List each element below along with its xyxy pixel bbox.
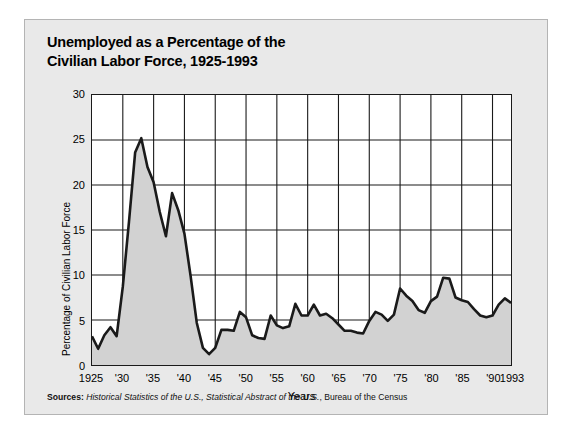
y-tick-label: 5 xyxy=(79,315,85,327)
y-tick-label: 15 xyxy=(73,224,85,236)
x-tick-label: '80 xyxy=(424,372,438,384)
y-tick-label: 30 xyxy=(73,88,85,100)
y-tick-label: 0 xyxy=(79,360,85,372)
x-tick-label: '90 xyxy=(486,372,500,384)
unemployment-area-chart: Percentage of Civilian Labor Force 05101… xyxy=(25,20,549,416)
chart-card: Unemployed as a Percentage of the Civili… xyxy=(24,19,548,415)
plot-area xyxy=(91,94,512,366)
sources-note: Sources: Historical Statistics of the U.… xyxy=(47,392,533,403)
chart-svg xyxy=(92,95,511,365)
x-tick-label: 1993 xyxy=(500,372,524,384)
x-tick-label: '40 xyxy=(177,372,191,384)
x-tick-label: '60 xyxy=(301,372,315,384)
area-fill xyxy=(92,138,511,365)
x-tick-label: '45 xyxy=(208,372,222,384)
y-tick-label: 10 xyxy=(73,269,85,281)
sources-label: Sources: xyxy=(47,392,84,402)
plot-area-wrapper: Percentage of Civilian Labor Force 05101… xyxy=(91,94,512,366)
x-tick-label: '75 xyxy=(393,372,407,384)
sources-italic: Historical Statistics of the U.S., Stati… xyxy=(86,392,319,402)
x-tick-label: '85 xyxy=(455,372,469,384)
y-axis-label: Percentage of Civilian Labor Force xyxy=(61,202,72,356)
x-tick-label: '65 xyxy=(331,372,345,384)
y-tick-label: 25 xyxy=(73,133,85,145)
x-tick-label: '50 xyxy=(239,372,253,384)
y-axis-label-wrapper: Percentage of Civilian Labor Force xyxy=(47,94,67,366)
x-tick-label: '30 xyxy=(115,372,129,384)
y-tick-label: 20 xyxy=(73,179,85,191)
sources-rest: , Bureau of the Census xyxy=(319,392,407,402)
x-tick-label: '70 xyxy=(362,372,376,384)
x-tick-label: '55 xyxy=(270,372,284,384)
x-tick-label: '35 xyxy=(146,372,160,384)
x-tick-label: 1925 xyxy=(79,372,103,384)
